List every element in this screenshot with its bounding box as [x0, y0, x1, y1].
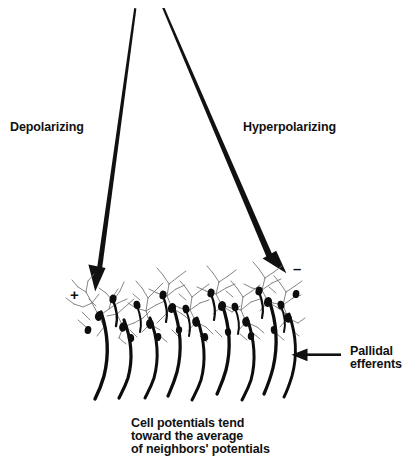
depolarizing-arrow-shaft: [97, 8, 137, 272]
soma: [292, 289, 300, 298]
depolarizing-label: Depolarizing: [10, 121, 84, 134]
soma: [133, 300, 142, 310]
minus-sign-label: –: [293, 262, 301, 275]
pallidal-efferents-label: Pallidal efferents: [350, 345, 402, 371]
axon-stub: [235, 308, 239, 334]
soma: [175, 326, 182, 335]
axon-stub: [163, 296, 167, 322]
axon: [95, 312, 107, 399]
plus-sign-label: +: [70, 288, 79, 301]
soma: [159, 290, 167, 300]
pallidal-arrow-shaft: [303, 353, 341, 356]
soma: [231, 302, 239, 312]
axon-bundle: [95, 292, 296, 400]
axon: [168, 306, 180, 396]
axon-stub: [137, 306, 141, 332]
pallidal-efferents-arrow: [292, 349, 342, 362]
axon: [264, 300, 276, 394]
axon: [217, 304, 229, 394]
axon: [119, 320, 131, 398]
hyperpolarizing-arrow: [162, 8, 286, 273]
soma: [255, 286, 264, 296]
axon-stub: [211, 294, 215, 320]
figure-caption: Cell potentials tend toward the average …: [131, 417, 270, 456]
depolarizing-arrow: [88, 8, 136, 292]
soma: [207, 288, 216, 298]
soma: [224, 328, 231, 337]
hyperpolarizing-label: Hyperpolarizing: [243, 121, 336, 134]
diagram-canvas: [0, 0, 413, 474]
axon: [242, 318, 254, 400]
axon: [192, 318, 204, 400]
axon-stub: [259, 292, 263, 318]
soma: [109, 294, 118, 304]
hyperpolarizing-arrow-shaft: [162, 8, 273, 261]
soma: [182, 304, 190, 314]
axon: [145, 318, 157, 398]
neuroscience-diagram: Depolarizing Hyperpolarizing Pallidal ef…: [0, 0, 413, 474]
axon-stub: [186, 310, 190, 336]
